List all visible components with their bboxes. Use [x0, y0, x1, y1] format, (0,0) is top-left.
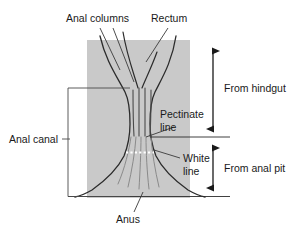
label-white-line-row2: line: [183, 165, 200, 177]
label-anal-columns: Anal columns: [66, 12, 129, 24]
label-rectum: Rectum: [151, 12, 187, 24]
label-anal-canal: Anal canal: [9, 133, 58, 145]
label-pectinate-line-row2: line: [160, 121, 177, 133]
label-pectinate-line-row1: Pectinate: [160, 108, 204, 120]
diagram-canvas: Anal columns Rectum Pectinate line White…: [0, 0, 297, 229]
label-anus: Anus: [116, 213, 140, 225]
label-from-hindgut: From hindgut: [224, 82, 286, 94]
label-white-line-row1: White: [183, 152, 210, 164]
label-from-anal-pit: From anal pit: [224, 162, 285, 174]
anatomy-figure: Anal columns Rectum Pectinate line White…: [0, 0, 297, 229]
